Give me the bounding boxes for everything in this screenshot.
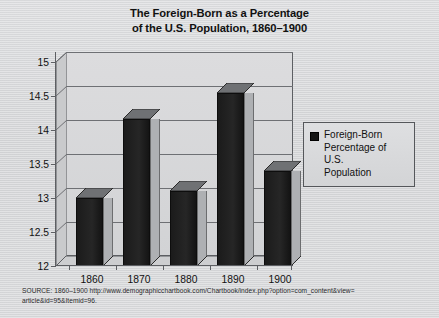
y-axis-label-14-5: 14.5 [29, 91, 49, 102]
bar-front-face [76, 198, 103, 266]
bar-1890[interactable] [217, 83, 244, 266]
y-axis-label-12: 12 [38, 261, 49, 272]
x-tick [116, 265, 117, 270]
gridline-15 [66, 52, 293, 53]
x-tick [210, 265, 211, 270]
y-tick [51, 198, 56, 199]
x-axis-label-1900: 1900 [269, 274, 292, 285]
y-axis: 15 14.5 14 13.5 13 12.5 12 [55, 52, 56, 266]
gridline-14-5 [66, 86, 293, 87]
grid-slant-13-5 [56, 154, 67, 165]
grid-slant-14 [56, 120, 67, 131]
grid-slant-12-5 [56, 222, 67, 233]
source-line-2: article&id=95&Itemid=96. [22, 296, 422, 306]
bar-side-face [291, 171, 301, 266]
bar-side-face [197, 191, 207, 266]
legend-label-line-3: Population [324, 167, 371, 178]
bar-top-face [123, 109, 150, 119]
gridline-14 [66, 120, 293, 121]
x-axis-label-1860: 1860 [81, 274, 104, 285]
bar-side-face [103, 198, 113, 266]
plot-area [56, 52, 293, 266]
x-tick [69, 265, 70, 270]
grid-slant-13 [56, 188, 67, 199]
bar-top-face [76, 188, 103, 198]
bar-side-face [150, 119, 160, 266]
chart-title: The Foreign-Born as a Percentage of the … [0, 6, 439, 35]
chart-legend: Foreign-Born Percentage of U.S. Populati… [303, 122, 415, 187]
bar-front-face [217, 93, 244, 266]
y-tick [51, 164, 56, 165]
y-tick [51, 62, 56, 63]
legend-label-line-2: Percentage of U.S. [324, 142, 386, 166]
legend-label-line-1: Foreign-Born [324, 129, 382, 140]
x-axis-label-1880: 1880 [175, 274, 198, 285]
bar-front-face [264, 171, 291, 266]
x-tick [291, 265, 292, 270]
gridline-13-5 [66, 154, 293, 155]
bar-side-face [244, 93, 254, 266]
bar-1900[interactable] [264, 161, 291, 266]
bar-front-face [170, 191, 197, 266]
source-note: SOURCE: 1860–1900 http://www.demographic… [22, 286, 422, 305]
chart-page: The Foreign-Born as a Percentage of the … [0, 0, 439, 318]
x-tick [163, 265, 164, 270]
y-tick [51, 232, 56, 233]
grid-slant-14-5 [56, 86, 67, 97]
bar-top-face [170, 181, 197, 191]
bar-top-face [217, 83, 244, 93]
x-axis-label-1870: 1870 [128, 274, 151, 285]
bar-top-face [264, 161, 291, 171]
bar-front-face [123, 119, 150, 266]
chart-title-line-1: The Foreign-Born as a Percentage [130, 7, 309, 19]
y-axis-label-12-5: 12.5 [29, 227, 49, 238]
y-axis-label-13-5: 13.5 [29, 159, 49, 170]
bar-1870[interactable] [123, 109, 150, 266]
bar-1880[interactable] [170, 181, 197, 266]
y-tick [51, 130, 56, 131]
y-axis-label-14: 14 [38, 125, 49, 136]
source-line-1: SOURCE: 1860–1900 http://www.demographic… [22, 286, 422, 296]
bar-1860[interactable] [76, 188, 103, 266]
chart-title-line-2: of the U.S. Population, 1860–1900 [0, 21, 439, 36]
y-tick [51, 96, 56, 97]
x-tick [257, 265, 258, 270]
legend-swatch-icon [310, 132, 319, 141]
y-axis-label-13: 13 [38, 193, 49, 204]
x-axis: 1860 1870 1880 1890 1900 [55, 265, 293, 266]
y-tick [51, 266, 56, 267]
legend-entry-label: Foreign-Born Percentage of U.S. Populati… [324, 129, 408, 179]
y-axis-label-15: 15 [38, 57, 49, 68]
x-axis-label-1890: 1890 [222, 274, 245, 285]
grid-slant-15 [56, 52, 67, 63]
